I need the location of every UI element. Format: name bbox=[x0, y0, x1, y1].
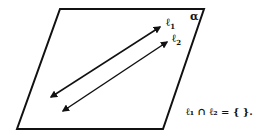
plane-alpha bbox=[17, 9, 204, 129]
intersection-equation: ℓ₁ ∩ ℓ₂ = { }. bbox=[186, 106, 253, 117]
line2-label: ℓ2 bbox=[172, 33, 181, 46]
line-l1 bbox=[51, 27, 160, 97]
diagram-canvas bbox=[0, 0, 268, 140]
line1-label: ℓ1 bbox=[166, 17, 175, 30]
line-l2 bbox=[63, 42, 167, 111]
plane-label: α bbox=[190, 11, 198, 22]
